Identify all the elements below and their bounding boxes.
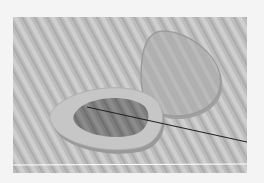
photo <box>13 17 247 173</box>
